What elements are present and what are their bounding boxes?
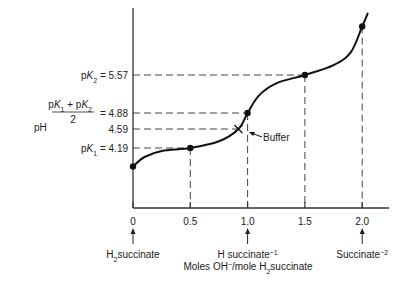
species-label: H succinate−1 [217, 249, 277, 261]
x-tick-label: 1.5 [298, 216, 312, 227]
data-point [244, 110, 250, 116]
species-annotations: H2succinateH succinate−1Succinate−2 [106, 228, 388, 263]
buffer-annotation: Buffer [234, 125, 290, 143]
x-tick-label: 0.5 [183, 216, 197, 227]
fraction-denominator: 2 [70, 114, 76, 125]
x-ticks: 00.51.01.52.0 [130, 202, 369, 227]
pka1-label: pK1 = 4.19 [81, 143, 128, 157]
x-tick-label: 2.0 [355, 216, 369, 227]
titration-curve [133, 13, 368, 167]
species-arrow-head [360, 228, 365, 234]
y-reference-labels: pK2 = 5.57pK1 + pK22= 4.884.59pK1 = 4.19 [48, 70, 128, 157]
titration-chart: 00.51.01.52.0 Buffer pK2 = 5.57pK1 + pK2… [0, 0, 409, 282]
data-point [302, 72, 308, 78]
species-arrow-head [131, 228, 136, 234]
reference-lines [133, 27, 362, 208]
data-point [130, 163, 136, 169]
x-tick-label: 0 [130, 216, 136, 227]
y-axis-label: pH [34, 122, 47, 133]
buffer-label: Buffer [263, 132, 290, 143]
data-point [187, 145, 193, 151]
x-axis-label: Moles OH−/mole H2succinate [183, 261, 313, 275]
fraction-numerator: pK1 + pK2 [48, 99, 92, 113]
x-tick-label: 1.0 [241, 216, 255, 227]
fraction-value: = 4.88 [100, 108, 129, 119]
pka2-label: pK2 = 5.57 [81, 70, 128, 84]
buffer-ph-label: 4.59 [109, 124, 129, 135]
species-label: H2succinate [106, 249, 160, 263]
species-label: Succinate−2 [336, 249, 388, 261]
species-arrow-head [245, 228, 250, 234]
data-point [359, 23, 365, 29]
